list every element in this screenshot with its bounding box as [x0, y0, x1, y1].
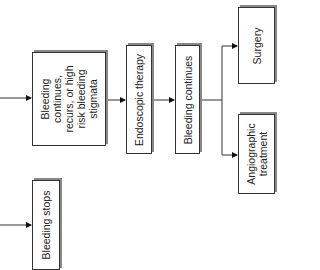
node-angiographic-treatment: Angiographic treatment	[238, 114, 275, 194]
node-label: Bleeding continues, recurs, or high risk…	[39, 65, 99, 132]
node-surgery: Surgery	[238, 7, 275, 84]
node-label: Bleeding continues	[182, 55, 194, 144]
node-label: Endoscopic therapy	[133, 53, 145, 145]
node-bleeding-continues: Bleeding continues	[175, 45, 200, 154]
node-label: Surgery	[251, 27, 263, 64]
node-label: Bleeding stops	[40, 191, 52, 260]
node-endoscopic-therapy: Endoscopic therapy	[126, 45, 152, 154]
node-label: Angiographic treatment	[245, 123, 269, 184]
node-bleeding-continues-high-risk: Bleeding continues, recurs, or high risk…	[32, 52, 106, 146]
node-bleeding-stops: Bleeding stops	[32, 180, 60, 270]
